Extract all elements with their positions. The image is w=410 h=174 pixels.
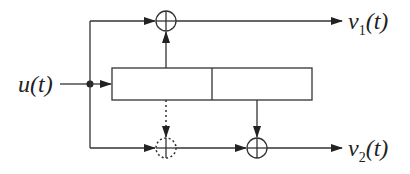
output2-label: v2(t)	[348, 135, 388, 165]
dotted-adder	[156, 138, 176, 158]
output1-label: v1(t)	[348, 8, 388, 38]
shift-register	[112, 68, 312, 100]
encoder-diagram: u(t) v1(t) v2(t)	[0, 0, 410, 174]
top-adder	[156, 11, 176, 31]
bottom-adder	[247, 138, 267, 158]
input-label: u(t)	[18, 71, 53, 97]
